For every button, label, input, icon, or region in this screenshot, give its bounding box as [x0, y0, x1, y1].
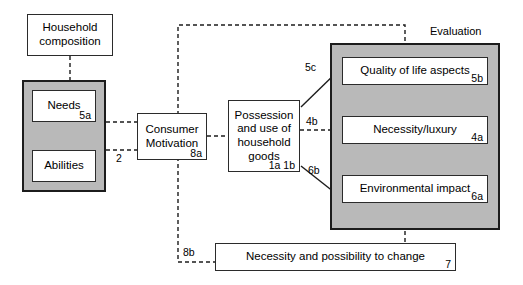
diagram-canvas: Household composition Needs 5a Abilities… — [0, 0, 523, 285]
node-necessity-luxury[interactable]: Necessity/luxury 4a — [342, 116, 488, 144]
node-necessity-luxury-label: Necessity/luxury — [368, 123, 462, 137]
node-necessity-change-label: Necessity and possibility to change — [241, 250, 430, 264]
node-quality-of-life-tag: 5b — [471, 73, 483, 84]
wire-label-5c: 5c — [305, 61, 316, 73]
node-consumer-motivation-tag: 8a — [190, 148, 202, 159]
wire-label-4b: 4b — [306, 115, 318, 127]
node-household-composition-label: Household composition — [28, 21, 112, 48]
node-needs-tag: 5a — [79, 110, 91, 121]
node-consumer-motivation[interactable]: Consumer Motivation 8a — [137, 113, 207, 160]
node-environmental-impact[interactable]: Environmental impact 6a — [342, 175, 488, 203]
node-quality-of-life-aspects[interactable]: Quality of life aspects 5b — [342, 57, 488, 85]
node-environmental-impact-label: Environmental impact — [355, 182, 476, 196]
node-abilities-label: Abilities — [39, 159, 89, 173]
node-environmental-impact-tag: 6a — [471, 191, 483, 202]
node-quality-of-life-label: Quality of life aspects — [355, 64, 474, 78]
node-necessity-possibility-to-change[interactable]: Necessity and possibility to change 7 — [215, 243, 456, 271]
node-necessity-luxury-tag: 4a — [471, 132, 483, 143]
wire-label-6b: 6b — [308, 164, 320, 176]
wire-label-8b: 8b — [183, 246, 195, 258]
node-needs[interactable]: Needs 5a — [32, 90, 96, 122]
node-possession-household-goods[interactable]: Possession and use of household goods 1a… — [228, 100, 300, 172]
node-abilities[interactable]: Abilities — [32, 150, 96, 182]
node-necessity-change-tag: 7 — [445, 259, 451, 270]
node-possession-tag: 1a 1b — [269, 160, 295, 171]
evaluation-caption: Evaluation — [430, 25, 481, 37]
node-household-composition[interactable]: Household composition — [27, 14, 113, 56]
node-consumer-motivation-label: Consumer Motivation — [138, 123, 206, 150]
wire-label-2: 2 — [116, 152, 122, 164]
node-possession-label: Possession and use of household goods — [229, 109, 299, 163]
